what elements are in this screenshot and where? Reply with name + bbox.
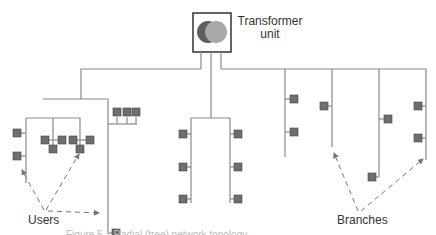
transformer-label-line2: unit — [234, 28, 306, 41]
network-lines — [18, 52, 426, 234]
transformer-unit-icon — [193, 13, 231, 52]
transformer-label: Transformer unit — [234, 15, 306, 41]
network-diagram — [0, 0, 436, 235]
pointer-arrows — [22, 153, 423, 213]
figure-caption: Figure 5.1 Radial (tree) network topolog… — [66, 229, 247, 235]
branches-label: Branches — [337, 214, 388, 227]
users-label: Users — [28, 214, 59, 227]
